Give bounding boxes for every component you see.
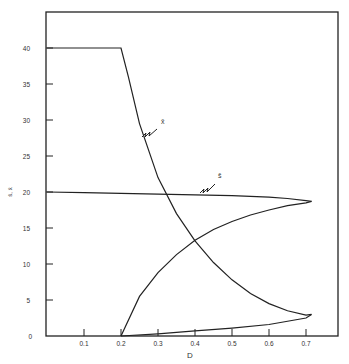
y-axis-label: s̄, x̄: [7, 187, 13, 196]
svg-text:0: 0: [28, 333, 32, 340]
x-axis-ticks: 0.10.20.30.40.50.60.7: [79, 329, 310, 347]
plot-frame: [46, 12, 338, 336]
series-lines: [47, 48, 312, 336]
series-line: [47, 192, 312, 201]
svg-text:25: 25: [23, 153, 31, 160]
series-line: [121, 314, 312, 336]
chart: 0510152025303540 0.10.20.30.40.50.60.7 D…: [0, 0, 349, 364]
svg-text:0.2: 0.2: [116, 340, 125, 347]
svg-text:0.5: 0.5: [227, 340, 236, 347]
x-bar-annotation: x̄: [142, 118, 165, 137]
svg-text:20: 20: [23, 189, 31, 196]
svg-text:x̄: x̄: [161, 118, 165, 125]
svg-text:40: 40: [23, 45, 31, 52]
svg-text:5: 5: [26, 297, 30, 304]
svg-text:0.3: 0.3: [153, 340, 162, 347]
svg-text:35: 35: [23, 81, 31, 88]
x-axis-label: D: [187, 351, 193, 360]
svg-text:15: 15: [23, 225, 31, 232]
s-bar-annotation: s̄: [200, 172, 222, 193]
svg-text:0.6: 0.6: [264, 340, 273, 347]
series-line: [121, 201, 312, 336]
svg-text:30: 30: [23, 117, 31, 124]
svg-text:s̄: s̄: [218, 172, 222, 179]
svg-text:0.1: 0.1: [79, 340, 88, 347]
svg-text:0.7: 0.7: [301, 340, 310, 347]
svg-text:10: 10: [23, 261, 31, 268]
series-line: [47, 48, 312, 315]
svg-text:0.4: 0.4: [190, 340, 199, 347]
